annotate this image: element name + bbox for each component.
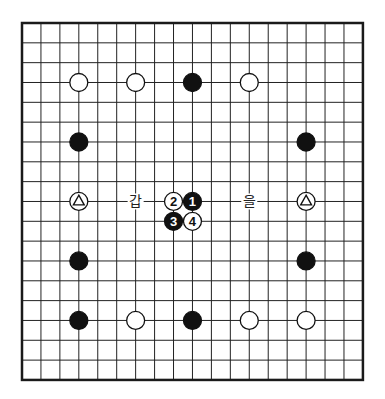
stone-circle — [70, 252, 88, 270]
go-board: 1234 갑을 — [0, 0, 385, 399]
white-stone — [297, 311, 315, 329]
black-stone: 3 — [165, 212, 183, 230]
point-label: 을 — [243, 193, 256, 209]
stone-circle — [70, 73, 88, 91]
stone-circle — [127, 73, 145, 91]
white-stone — [70, 73, 88, 91]
white-stone — [240, 73, 258, 91]
stone-circle — [183, 73, 201, 91]
black-stone — [70, 133, 88, 151]
black-stone — [70, 311, 88, 329]
stone-circle — [240, 73, 258, 91]
move-number: 2 — [170, 194, 177, 209]
black-stone — [183, 311, 201, 329]
stone-circle — [70, 311, 88, 329]
move-number: 3 — [170, 214, 177, 229]
move-number: 1 — [189, 194, 196, 209]
move-number: 4 — [189, 214, 197, 229]
black-stone — [70, 252, 88, 270]
white-stone — [127, 73, 145, 91]
white-stone — [70, 192, 88, 210]
black-stone — [183, 73, 201, 91]
point-label: 갑 — [129, 193, 142, 209]
black-stone — [297, 252, 315, 270]
black-stone — [297, 133, 315, 151]
stone-circle — [70, 133, 88, 151]
stone-circle — [240, 311, 258, 329]
stone-circle — [297, 252, 315, 270]
white-stone — [127, 311, 145, 329]
black-stone: 1 — [183, 192, 201, 210]
white-stone — [240, 311, 258, 329]
white-stone — [297, 192, 315, 210]
stone-circle — [183, 311, 201, 329]
white-stone: 2 — [165, 192, 183, 210]
stone-circle — [297, 133, 315, 151]
stone-circle — [127, 311, 145, 329]
stone-circle — [297, 311, 315, 329]
white-stone: 4 — [183, 212, 201, 230]
